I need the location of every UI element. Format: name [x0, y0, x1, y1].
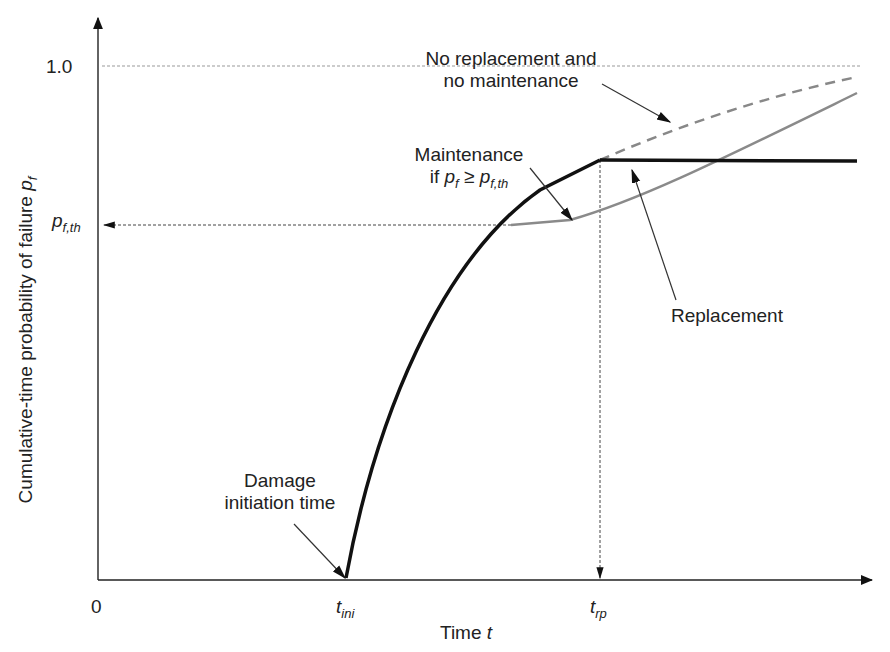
maint-ge: ≥ — [459, 166, 480, 187]
y-tick-one-text: 1.0 — [46, 56, 72, 77]
annotation-no-replacement-line2: no maintenance — [396, 70, 626, 92]
x-tick-origin: 0 — [91, 596, 102, 618]
y-tick-threshold-main: p — [52, 210, 63, 231]
x-axis-title-text: Time — [440, 622, 487, 643]
curve-replacement — [600, 160, 857, 161]
annotation-maintenance-line1: Maintenance — [384, 144, 554, 166]
maint-p2: p — [480, 166, 491, 187]
annotation-damage-line1: Damage — [200, 470, 360, 492]
x-tick-t-ini-sub: ini — [341, 606, 354, 621]
x-tick-t-ini: tini — [336, 596, 354, 625]
x-tick-origin-text: 0 — [91, 596, 102, 617]
maint-p1: p — [444, 166, 455, 187]
curve-deterioration — [346, 160, 600, 578]
annotation-no-replacement: No replacement and no maintenance — [396, 48, 626, 92]
x-axis-title-var: t — [487, 622, 492, 643]
annotation-maintenance: Maintenance if pf ≥ pf,th — [384, 144, 554, 195]
annotation-maintenance-line2: if pf ≥ pf,th — [384, 166, 554, 195]
y-axis-title: Cumulative-time probability of failure p… — [15, 177, 40, 504]
curve-no-intervention-dashed — [600, 77, 857, 160]
arrow-damage-initiation — [294, 524, 345, 578]
y-axis-title-var: p — [15, 180, 36, 191]
y-tick-threshold-sub: f,th — [63, 220, 81, 235]
y-tick-one: 1.0 — [46, 56, 72, 78]
x-tick-t-rp-sub: rp — [595, 606, 607, 621]
annotation-damage-initiation: Damage initiation time — [200, 470, 360, 514]
y-tick-threshold: pf,th — [52, 210, 81, 239]
annotation-no-replacement-line1: No replacement and — [396, 48, 626, 70]
x-tick-t-rp: trp — [590, 596, 607, 625]
x-axis-title: Time t — [440, 622, 492, 644]
maint-p2-sub: f,th — [490, 176, 508, 191]
maint-if: if — [430, 166, 445, 187]
y-axis-title-text: Cumulative-time probability of failure — [15, 191, 36, 504]
annotation-replacement-text: Replacement — [671, 305, 783, 326]
y-axis-title-var-sub: f — [25, 177, 40, 181]
annotation-damage-line2: initiation time — [200, 492, 360, 514]
annotation-replacement: Replacement — [671, 305, 783, 327]
